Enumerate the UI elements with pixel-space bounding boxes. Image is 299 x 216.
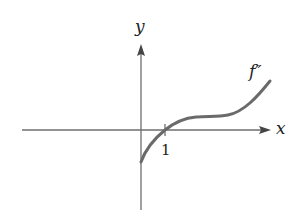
y-axis-label: y	[135, 18, 145, 35]
tick-label-1: 1	[161, 143, 171, 158]
x-axis-label: x	[276, 120, 286, 137]
curve-label: f″	[249, 63, 262, 80]
graph-svg	[0, 0, 299, 216]
